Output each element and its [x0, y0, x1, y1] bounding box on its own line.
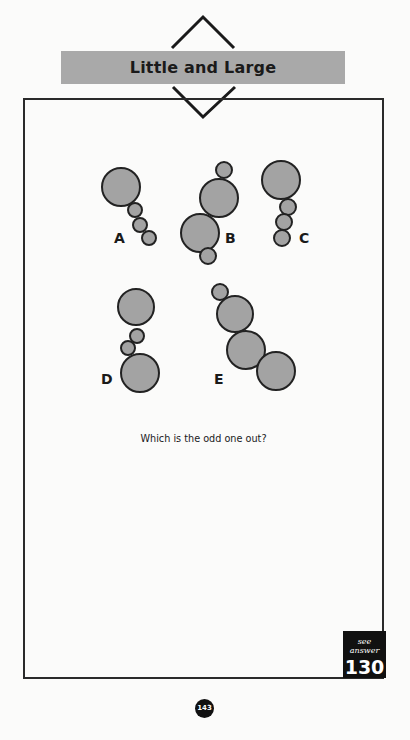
small-circle	[130, 329, 144, 343]
figure-a: A	[102, 168, 156, 246]
large-circle	[217, 296, 253, 332]
figure-label: D	[101, 371, 113, 387]
large-circle	[102, 168, 140, 206]
figure-e: E	[212, 284, 295, 390]
large-circle	[200, 179, 238, 217]
small-circle	[128, 203, 142, 217]
see-answer-caption: see answer	[343, 637, 386, 655]
figure-label: C	[299, 230, 309, 246]
large-circle	[262, 161, 300, 199]
large-circle	[121, 354, 159, 392]
small-circle	[142, 231, 156, 245]
large-circle	[257, 352, 295, 390]
large-circle	[181, 214, 219, 252]
figure-label: E	[214, 371, 224, 387]
answer-page-number: 130	[343, 656, 386, 678]
small-circle	[276, 214, 292, 230]
figures-canvas: ABCDE	[0, 0, 410, 740]
small-circle	[200, 248, 216, 264]
figure-c: C	[262, 161, 309, 246]
figure-d: D	[101, 289, 159, 392]
see-answer-box: see answer 130	[343, 631, 386, 678]
large-circle	[118, 289, 154, 325]
question-text: Which is the odd one out?	[45, 432, 363, 445]
figure-label: A	[114, 230, 125, 246]
small-circle	[121, 341, 135, 355]
page-number-badge: 143	[195, 699, 214, 718]
small-circle	[133, 218, 147, 232]
figure-label: B	[225, 230, 236, 246]
small-circle	[216, 162, 232, 178]
figure-b: B	[181, 162, 238, 264]
small-circle	[280, 199, 296, 215]
small-circle	[274, 230, 290, 246]
